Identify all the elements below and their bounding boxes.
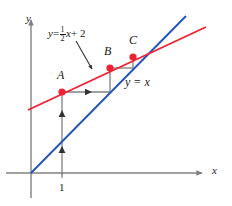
point-c-label: C	[129, 34, 137, 46]
fraction-numerator: 1	[60, 26, 66, 34]
equation-label-blue-line: y = x	[125, 76, 150, 88]
point-a-label: A	[57, 69, 64, 81]
cobweb-arrowhead-up-high	[59, 110, 66, 117]
equation-equals: =	[53, 27, 59, 39]
point-c-marker	[129, 53, 136, 60]
graph-figure: y x y=12x+ 2 y = x A B C 1	[0, 0, 232, 206]
cobweb-arrowheads	[59, 89, 92, 153]
equation-fraction: 12	[60, 26, 66, 44]
x-axis-label: x	[212, 165, 217, 176]
x-tick-label-one: 1	[59, 182, 65, 193]
equation-tail: + 2	[71, 27, 85, 39]
point-b-label: B	[104, 45, 111, 57]
graph-canvas	[0, 0, 232, 206]
fraction-denominator: 2	[60, 34, 66, 43]
point-a-marker	[58, 88, 65, 95]
y-axis-label: y	[26, 13, 31, 24]
equation-leader-arrow	[76, 41, 92, 69]
equation-label-red-line: y=12x+ 2	[48, 26, 85, 44]
cobweb-arrowhead-up-low	[59, 146, 66, 153]
point-b-marker	[106, 64, 113, 71]
cobweb-arrowhead-right	[85, 89, 92, 96]
cobweb-connectors	[62, 57, 133, 175]
